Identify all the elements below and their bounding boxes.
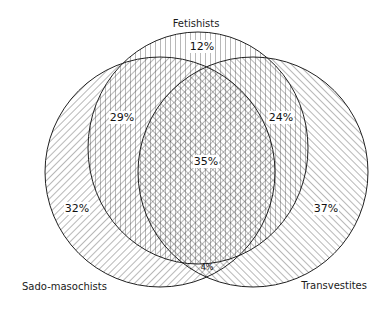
value-29: 29% xyxy=(109,111,135,124)
svg-text:35%: 35% xyxy=(194,155,218,168)
svg-text:32%: 32% xyxy=(65,202,89,215)
value-4: 4% xyxy=(201,263,214,272)
label-transvestites: Transvestites xyxy=(300,280,367,291)
label-sado-masochists: Sado-masochists xyxy=(22,281,107,292)
value-24: 24% xyxy=(268,111,294,124)
value-37: 37% xyxy=(313,202,339,215)
svg-text:29%: 29% xyxy=(110,111,134,124)
value-35: 35% xyxy=(193,155,219,168)
label-fetishists: Fetishists xyxy=(173,18,220,29)
svg-text:4%: 4% xyxy=(201,263,214,272)
fetishists-ellipse-fill xyxy=(88,32,308,264)
svg-text:24%: 24% xyxy=(269,111,293,124)
value-32: 32% xyxy=(64,202,90,215)
venn-diagram: 12% 29% 24% 35% 32% 37% 4% Fetishists Sa… xyxy=(0,0,389,314)
value-12: 12% xyxy=(190,40,214,53)
svg-text:12%: 12% xyxy=(190,40,214,53)
svg-text:37%: 37% xyxy=(314,202,338,215)
